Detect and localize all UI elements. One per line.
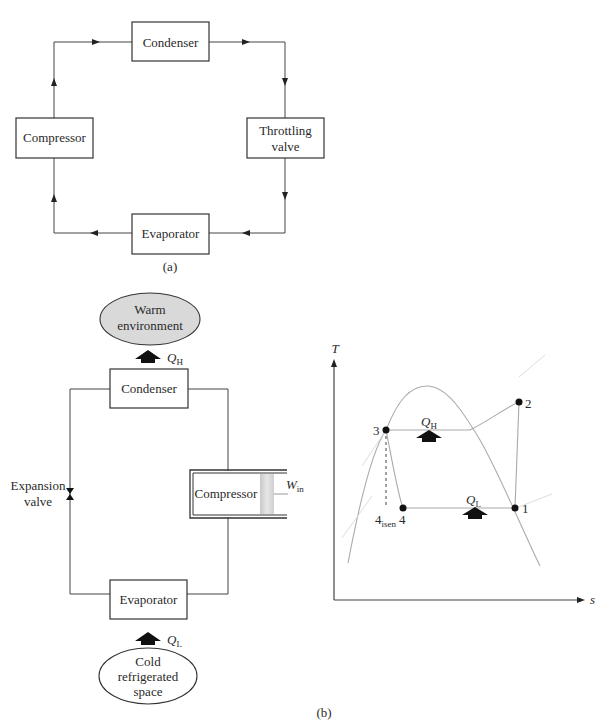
- s-axis-label: s: [590, 592, 595, 607]
- cold-space-label-1: Cold: [135, 654, 161, 669]
- state-2-label: 2: [525, 396, 532, 411]
- caption-a: (a): [163, 259, 177, 274]
- arrow-up-icon: [51, 194, 57, 202]
- evaporator-label-b: Evaporator: [120, 592, 178, 607]
- cold-space-label-3: space: [134, 684, 163, 699]
- expansion-valve-icon-lower: [66, 494, 74, 500]
- process-2-3: [386, 402, 519, 430]
- condenser-label: Condenser: [143, 35, 199, 50]
- q-high-label: QH: [167, 350, 183, 367]
- t-axis-label: T: [331, 341, 339, 356]
- warm-environment-label-2: environment: [117, 318, 183, 333]
- state-1-label: 1: [522, 501, 529, 516]
- state-point-2: [516, 399, 523, 406]
- state-point-4: [400, 505, 407, 512]
- throttling-valve-label-1: Throttling: [259, 123, 312, 138]
- saturation-dome: [348, 386, 540, 566]
- warm-environment-label-1: Warm: [134, 302, 165, 317]
- compressor-label: Compressor: [23, 130, 87, 145]
- line-condenser-valve: [209, 42, 285, 118]
- arrow-down-icon: [282, 192, 288, 200]
- arrow-right-icon: [92, 39, 100, 45]
- piston: [260, 474, 274, 514]
- q-low-label: QL: [167, 632, 182, 649]
- arrow-right-icon: [242, 39, 250, 45]
- compressor-label-b: Compressor: [195, 486, 259, 501]
- line-compressor-evaporator: [187, 517, 228, 594]
- expansion-valve-icon: [66, 488, 74, 494]
- refrigeration-cycle-figure: Condenser Compressor Throttling valve Ev…: [0, 0, 608, 724]
- ts-heat-in-arrow-icon: [462, 507, 488, 519]
- figure-a-block-diagram: Condenser Compressor Throttling valve Ev…: [16, 22, 324, 274]
- heat-in-arrow-icon: [135, 632, 161, 645]
- line-left-loop: [70, 389, 110, 594]
- arrow-left-icon: [242, 230, 250, 236]
- arrow-up-icon: [51, 78, 57, 86]
- isobar-low-left: [342, 496, 372, 538]
- process-1-2: [515, 402, 519, 508]
- ts-heat-out-arrow-icon: [416, 430, 442, 442]
- figure-b-schematic: Warm environment QH Condenser Expansion …: [11, 293, 305, 704]
- evaporator-label: Evaporator: [142, 226, 200, 241]
- heat-out-arrow-icon: [135, 350, 161, 363]
- arrow-left-icon: [90, 230, 98, 236]
- state-4-label: 4: [399, 512, 406, 527]
- state-point-1: [512, 505, 519, 512]
- line-condenser-compressor: [188, 389, 228, 471]
- process-3-4: [386, 430, 403, 508]
- ts-q-low-label: QL: [466, 492, 481, 509]
- expansion-valve-label-1: Expansion: [11, 478, 66, 493]
- throttling-valve-label-2: valve: [271, 139, 299, 154]
- line-evaporator-compressor: [54, 158, 132, 233]
- state-4isen-label: 4isen: [375, 512, 396, 529]
- ts-diagram: T s 1 2 3 4 4isen QH QL: [331, 341, 595, 607]
- s-axis-arrow-icon: [577, 597, 585, 603]
- compressor-cylinder: Compressor Win: [190, 470, 304, 518]
- ts-q-high-label: QH: [421, 414, 437, 431]
- work-in-label: Win: [286, 477, 304, 494]
- isobar-high-right: [519, 355, 545, 377]
- state-point-3: [383, 427, 390, 434]
- condenser-label-b: Condenser: [121, 381, 177, 396]
- caption-b: (b): [316, 705, 331, 720]
- expansion-valve-label-2: valve: [24, 494, 52, 509]
- line-compressor-condenser: [54, 42, 132, 118]
- line-valve-evaporator: [209, 158, 285, 233]
- state-3-label: 3: [373, 423, 380, 438]
- arrow-down-icon: [282, 78, 288, 86]
- t-axis-arrow-icon: [331, 359, 337, 367]
- cold-space-label-2: refrigerated: [118, 669, 179, 684]
